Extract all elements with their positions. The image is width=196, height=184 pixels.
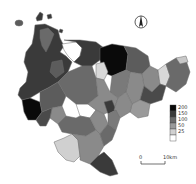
island-region (15, 20, 23, 26)
island-region (59, 29, 63, 33)
legend-swatch-50 (170, 123, 176, 129)
scale-start-label: 0 (139, 154, 142, 160)
scale-bar (141, 161, 165, 164)
legend-swatch-100 (170, 117, 176, 123)
north-arrow-icon (135, 15, 147, 28)
legend-swatch-0 (170, 135, 176, 141)
legend-swatch-150 (170, 111, 176, 117)
legend-label-25: 25 (178, 128, 184, 134)
legend-swatch-25 (170, 129, 176, 135)
region-far-east (166, 58, 190, 92)
island-region (36, 12, 43, 21)
scale-end-label: 10km (163, 154, 177, 160)
island-region (47, 14, 52, 19)
legend-swatch-200 (170, 105, 176, 111)
legend (170, 105, 176, 141)
